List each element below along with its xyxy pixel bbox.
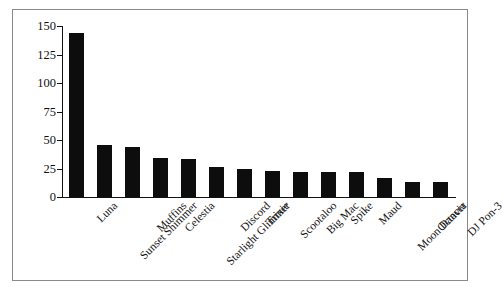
y-axis-tick-label: 100 [37,77,56,90]
bar [321,172,336,197]
bar [181,159,196,197]
bar [209,167,224,197]
bar [69,33,84,197]
bar [265,171,280,197]
bar [153,158,168,197]
x-axis-label: Luna [95,200,120,225]
y-axis-tick-label: 50 [44,134,57,147]
bar [293,172,308,197]
y-axis-tick-label: 25 [44,162,57,175]
y-axis-tick-label: 75 [44,105,57,118]
x-axis-label: DJ Pon-3 [466,200,504,239]
bar [237,169,252,198]
y-axis-tick-label: 150 [37,20,56,33]
y-axis-tick-label: 0 [50,191,56,204]
y-axis-tick [57,197,62,198]
bar [405,182,420,197]
bar [349,172,364,197]
bar [125,147,140,197]
plot-area [62,26,455,197]
y-axis-tick-labels: 0255075100125150 [26,26,56,197]
x-axis-label: Maud [377,200,404,227]
x-axis-category-labels: LunaSunset ShimmerMuffinsCelestiaStarlig… [62,200,462,280]
x-axis-line [62,197,456,198]
y-axis-tick-label: 125 [37,48,56,61]
bar [433,182,448,197]
bar [377,178,392,197]
bar [97,145,112,197]
